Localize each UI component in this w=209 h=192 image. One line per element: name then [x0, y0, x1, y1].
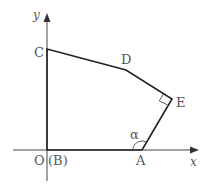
y-axis-label: y [32, 8, 40, 22]
point-label-C: C [34, 45, 44, 60]
y-axis-arrow-icon [44, 13, 51, 22]
origin-alt-label: (B) [48, 153, 68, 168]
coordinate-diagram: y x C D E A O (B) α [0, 0, 209, 192]
point-label-D: D [121, 52, 131, 67]
origin-label: O [34, 153, 45, 168]
x-axis-label: x [190, 155, 197, 169]
x-axis-arrow-icon [190, 147, 199, 154]
point-label-A: A [135, 153, 146, 168]
point-label-E: E [176, 95, 186, 110]
angle-alpha-label: α [130, 127, 139, 142]
polygon-path [47, 49, 172, 150]
